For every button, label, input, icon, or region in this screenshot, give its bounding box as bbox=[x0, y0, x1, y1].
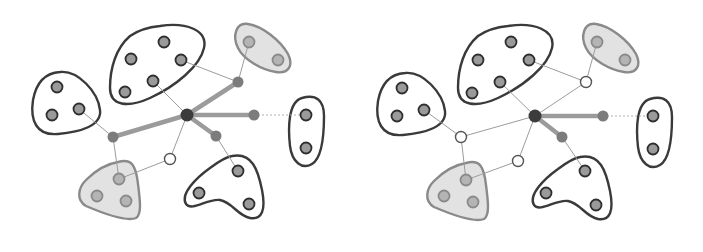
thin-edge bbox=[424, 110, 461, 137]
member-node bbox=[461, 175, 472, 186]
member-node bbox=[148, 76, 159, 87]
hub-node bbox=[529, 110, 542, 123]
member-node bbox=[301, 110, 312, 121]
member-node bbox=[397, 83, 408, 94]
member-node bbox=[92, 191, 103, 202]
open-node bbox=[456, 132, 467, 143]
member-node bbox=[524, 55, 535, 66]
thin-edge bbox=[535, 82, 586, 116]
right-cluster bbox=[637, 98, 672, 167]
open-node bbox=[165, 154, 176, 165]
intermediate-node bbox=[598, 111, 609, 122]
member-node bbox=[114, 174, 125, 185]
member-node bbox=[244, 37, 255, 48]
right-cluster bbox=[289, 97, 324, 166]
member-node bbox=[419, 105, 430, 116]
member-node bbox=[473, 55, 484, 66]
panel-left-graph bbox=[32, 24, 324, 219]
member-node bbox=[194, 188, 205, 199]
intermediate-node bbox=[557, 132, 568, 143]
member-node bbox=[592, 37, 603, 48]
thick-edge bbox=[113, 115, 187, 137]
left-cluster bbox=[377, 73, 445, 135]
member-node bbox=[648, 144, 659, 155]
left-cluster bbox=[32, 72, 100, 134]
member-node bbox=[301, 143, 312, 154]
member-node bbox=[541, 188, 552, 199]
thin-edge bbox=[518, 116, 535, 161]
member-node bbox=[495, 77, 506, 88]
member-node bbox=[176, 55, 187, 66]
member-node bbox=[439, 191, 450, 202]
intermediate-node bbox=[211, 131, 222, 142]
diagram-canvas bbox=[0, 0, 703, 252]
cluster-graph-diagram bbox=[0, 0, 703, 252]
hub-node bbox=[181, 109, 194, 122]
top-right-cluster bbox=[583, 24, 638, 72]
member-node bbox=[47, 110, 58, 121]
bottom-left-cluster bbox=[427, 162, 488, 220]
intermediate-node bbox=[233, 77, 244, 88]
member-node bbox=[74, 104, 85, 115]
member-node bbox=[468, 197, 479, 208]
member-node bbox=[648, 111, 659, 122]
member-node bbox=[121, 196, 132, 207]
member-node bbox=[580, 166, 591, 177]
member-node bbox=[273, 55, 284, 66]
member-node bbox=[244, 199, 255, 210]
intermediate-node bbox=[108, 132, 119, 143]
panel-right-graph bbox=[377, 24, 672, 220]
thick-edge bbox=[187, 82, 238, 115]
thin-edge bbox=[461, 116, 535, 137]
top-right-cluster bbox=[235, 24, 290, 72]
member-node bbox=[120, 87, 131, 98]
thin-edge bbox=[79, 109, 113, 137]
member-node bbox=[52, 82, 63, 93]
member-node bbox=[591, 200, 602, 211]
member-node bbox=[392, 111, 403, 122]
intermediate-node bbox=[249, 110, 260, 121]
member-node bbox=[467, 88, 478, 99]
member-node bbox=[159, 37, 170, 48]
bottom-left-cluster bbox=[79, 161, 140, 219]
open-node bbox=[581, 77, 592, 88]
member-node bbox=[233, 166, 244, 177]
open-node bbox=[513, 156, 524, 167]
member-node bbox=[126, 54, 137, 65]
member-node bbox=[620, 55, 631, 66]
member-node bbox=[506, 37, 517, 48]
